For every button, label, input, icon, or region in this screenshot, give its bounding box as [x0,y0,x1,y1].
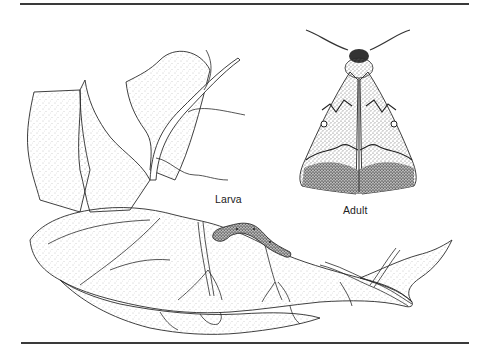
bottom-rule [21,342,469,344]
larva-label: Larva [215,193,242,205]
adult-moth [300,30,416,194]
leaf-upper-lobes [27,51,210,212]
adult-label: Adult [343,204,367,216]
illustration-drawing [0,0,484,354]
moth-lifecycle-illustration: Larva Adult [0,0,484,354]
